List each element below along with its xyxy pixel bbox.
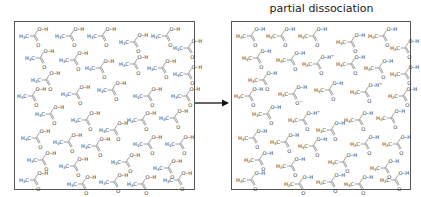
- diagram-title: partial dissociation: [231, 2, 412, 15]
- acetic-acid-molecule-neutral: H3C O–H O: [238, 126, 272, 150]
- svg-text:H3C: H3C: [85, 65, 95, 72]
- svg-text:H3C: H3C: [133, 141, 143, 148]
- svg-text:H3C: H3C: [147, 65, 157, 72]
- svg-text:O: O: [333, 188, 337, 194]
- svg-text:H3C: H3C: [67, 181, 77, 188]
- svg-text:O–H: O–H: [333, 80, 344, 86]
- svg-text:H3C: H3C: [59, 57, 69, 64]
- svg-text:O: O: [36, 186, 40, 192]
- svg-text:O–H: O–H: [257, 128, 268, 134]
- svg-text:O–H: O–H: [184, 134, 195, 140]
- svg-text:H3C: H3C: [173, 71, 183, 78]
- acetic-acid-molecule-neutral: H3C O–H O: [25, 46, 59, 70]
- svg-text:O–H: O–H: [78, 156, 89, 162]
- svg-text:H3C: H3C: [370, 165, 380, 172]
- svg-text:H3C: H3C: [17, 93, 27, 100]
- svg-text:O: O: [353, 70, 357, 76]
- acetic-acid-molecule-neutral: H3C O–H O: [127, 172, 161, 196]
- svg-text:O–H: O–H: [50, 70, 61, 76]
- acetic-acid-molecule-neutral: H3C O–H O: [380, 168, 414, 192]
- svg-text:H3C: H3C: [276, 57, 286, 64]
- svg-text:O–H: O–H: [100, 136, 111, 142]
- svg-text:O: O: [104, 42, 108, 48]
- partially-dissociated-solution-box: H3C O–H O H3C O–H O H3C O–: [231, 21, 411, 190]
- svg-text:O–H: O–H: [40, 128, 51, 134]
- svg-text:H3C: H3C: [61, 91, 71, 98]
- acetic-acid-molecule-neutral: H3C O–H O: [19, 24, 53, 48]
- svg-text:O–H: O–H: [190, 86, 201, 92]
- svg-text:O–H: O–H: [295, 156, 306, 162]
- acetic-acid-molecule-neutral: H3C O–H O: [382, 132, 416, 156]
- acetic-acid-molecule-neutral: H3C O–H O: [236, 24, 270, 48]
- acetic-acid-molecule-neutral: H3C O–H O: [67, 172, 101, 196]
- svg-text:H3C: H3C: [314, 87, 324, 94]
- svg-text:O–H: O–H: [38, 26, 49, 32]
- svg-text:O–H: O–H: [401, 134, 412, 140]
- svg-text:O: O: [385, 42, 389, 48]
- svg-text:O–H: O–H: [90, 110, 101, 116]
- svg-text:O: O: [283, 42, 287, 48]
- svg-text:O–H: O–H: [80, 84, 91, 90]
- svg-text:O–H: O–H: [389, 158, 400, 164]
- svg-text:H3C: H3C: [350, 141, 360, 148]
- svg-text:H3C: H3C: [171, 93, 181, 100]
- svg-text:O: O: [114, 96, 118, 102]
- svg-text:O: O: [84, 190, 88, 196]
- svg-text:O–H+: O–H+: [369, 81, 383, 88]
- svg-text:O–H: O–H: [347, 152, 358, 158]
- svg-text:H3C: H3C: [97, 87, 107, 94]
- svg-text:O–H: O–H: [255, 26, 266, 32]
- svg-text:O–H: O–H: [54, 104, 65, 110]
- svg-text:H3C: H3C: [25, 55, 35, 62]
- svg-text:O: O: [180, 186, 184, 192]
- svg-text:H3C: H3C: [119, 39, 129, 46]
- svg-text:O–H: O–H: [363, 110, 374, 116]
- svg-text:H3C: H3C: [59, 163, 69, 170]
- svg-text:H3C: H3C: [133, 93, 143, 100]
- svg-text:O: O: [116, 188, 120, 194]
- svg-text:O: O: [136, 70, 140, 76]
- svg-text:O: O: [393, 124, 397, 130]
- svg-text:O–H: O–H: [399, 170, 410, 176]
- svg-text:O–H+: O–H+: [321, 53, 335, 60]
- acetic-acid-molecule-neutral: H3C O–H O: [35, 102, 69, 126]
- svg-text:O: O: [407, 54, 411, 60]
- svg-text:O–H: O–H: [192, 38, 203, 44]
- acetic-acid-molecule-neutral: H3C O–H O: [127, 108, 161, 132]
- svg-text:O: O: [315, 152, 319, 158]
- svg-text:O–H: O–H: [86, 174, 97, 180]
- svg-text:O: O: [144, 190, 148, 196]
- svg-text:O: O: [98, 152, 102, 158]
- svg-text:O: O: [168, 42, 172, 48]
- svg-text:O–H: O–H: [303, 174, 314, 180]
- svg-text:O: O: [182, 150, 186, 156]
- svg-text:H3C: H3C: [19, 177, 29, 184]
- svg-text:H3C: H3C: [344, 181, 354, 188]
- svg-text:O–H: O–H: [170, 26, 181, 32]
- svg-text:H3C: H3C: [316, 127, 326, 134]
- svg-text:O: O: [397, 186, 401, 192]
- svg-text:O: O: [361, 190, 365, 196]
- svg-text:H3C: H3C: [270, 139, 280, 146]
- svg-text:H3C: H3C: [298, 143, 308, 150]
- svg-text:O: O: [144, 126, 148, 132]
- acetic-acid-molecule-neutral: H3C O–H O: [388, 84, 421, 108]
- svg-text:O–H: O–H: [172, 158, 183, 164]
- svg-text:O: O: [72, 42, 76, 48]
- svg-text:O: O: [269, 120, 273, 126]
- acetic-acid-molecule-neutral: H3C O–H O: [344, 108, 378, 132]
- svg-text:H3C: H3C: [35, 111, 45, 118]
- svg-text:O–H: O–H: [78, 50, 89, 56]
- acetic-acid-molecule-neutral: H3C O–H O: [159, 106, 193, 130]
- svg-text:O–H+: O–H+: [307, 109, 321, 116]
- svg-text:O–H: O–H: [261, 48, 272, 54]
- acetic-acid-molecule-neutral: H3C O–H O: [314, 78, 348, 102]
- acetic-acid-molecule-neutral: H3C O–H O: [390, 62, 421, 86]
- svg-text:O–H: O–H: [116, 80, 127, 86]
- svg-text:H3C: H3C: [55, 33, 65, 40]
- svg-text:O: O: [399, 150, 403, 156]
- svg-text:H3C: H3C: [236, 33, 246, 40]
- svg-text:O–H: O–H: [36, 86, 47, 92]
- svg-text:O–H: O–H: [74, 26, 85, 32]
- svg-text:H3C: H3C: [266, 33, 276, 40]
